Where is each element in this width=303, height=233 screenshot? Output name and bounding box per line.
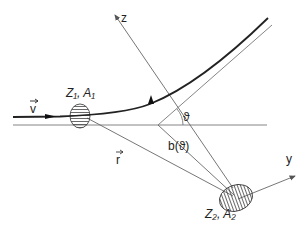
target-label: Z₂, A₂ bbox=[204, 207, 236, 221]
projectile-label: Z₁, A₁ bbox=[65, 86, 95, 100]
impact-parameter-line bbox=[158, 125, 234, 195]
trajectory-curve bbox=[13, 18, 268, 117]
z-axis-label: z bbox=[121, 11, 127, 25]
impact-parameter-label: b(ϑ) bbox=[168, 139, 189, 153]
velocity-label: v bbox=[30, 102, 36, 116]
z-axis bbox=[115, 15, 233, 188]
y-axis-label: y bbox=[286, 152, 292, 166]
position-vector-label: r bbox=[116, 153, 120, 167]
scattering-angle-label: ϑ bbox=[183, 110, 190, 124]
position-vector-r bbox=[87, 118, 233, 196]
trajectory-arrow-icon bbox=[45, 114, 56, 119]
asymptote-line bbox=[158, 25, 272, 125]
scattering-diagram: v Z₁, A₁ z y r b(ϑ) ϑ Z₂, A₂ bbox=[0, 0, 303, 233]
closest-approach-arrow-icon bbox=[148, 95, 154, 104]
